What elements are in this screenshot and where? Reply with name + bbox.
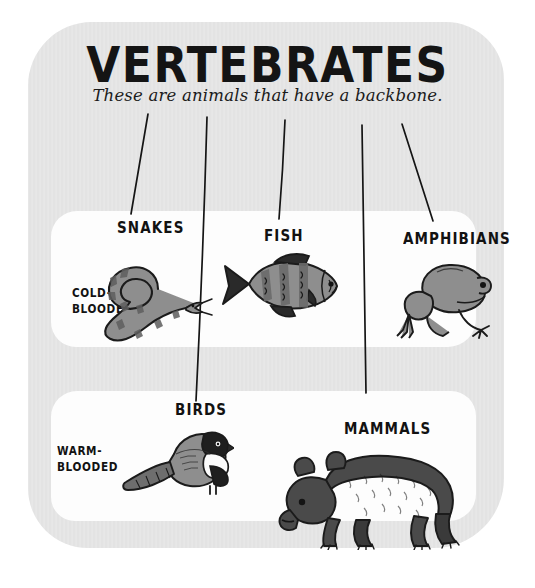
frog-illustration [393,248,501,340]
vertebrates-poster: VERTEBRATES These are animals that have … [0,0,535,588]
bird-illustration [118,424,234,506]
snake-illustration [92,246,214,344]
fish-illustration [213,246,341,322]
category-label-mammals: MAMMALS [344,419,431,437]
category-label-snakes: SNAKES [117,218,184,236]
category-label-fish: FISH [264,226,304,244]
page-title: VERTEBRATES [0,36,535,93]
page-subtitle: These are animals that have a backbone. [0,86,535,105]
category-label-amphibians: AMPHIBIANS [403,229,511,247]
row-label-warm-line1: WARM- [57,443,118,458]
row-label-warm-line2: BLOODED [57,458,118,473]
bear-illustration [278,440,468,550]
category-label-birds: BIRDS [175,400,227,418]
row-label-warm-blooded: WARM- BLOODED [57,443,118,474]
